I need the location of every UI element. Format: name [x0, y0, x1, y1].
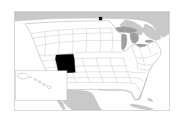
marker-north-plains[interactable]	[99, 17, 102, 20]
map-frame	[14, 11, 170, 111]
map-figure: New Mexico	[0, 0, 186, 129]
markers-group	[99, 17, 102, 20]
alaska-hawaii-inset	[16, 71, 67, 100]
us-map-svg[interactable]	[15, 12, 169, 110]
highlighted-state-new-mexico[interactable]	[55, 54, 75, 73]
